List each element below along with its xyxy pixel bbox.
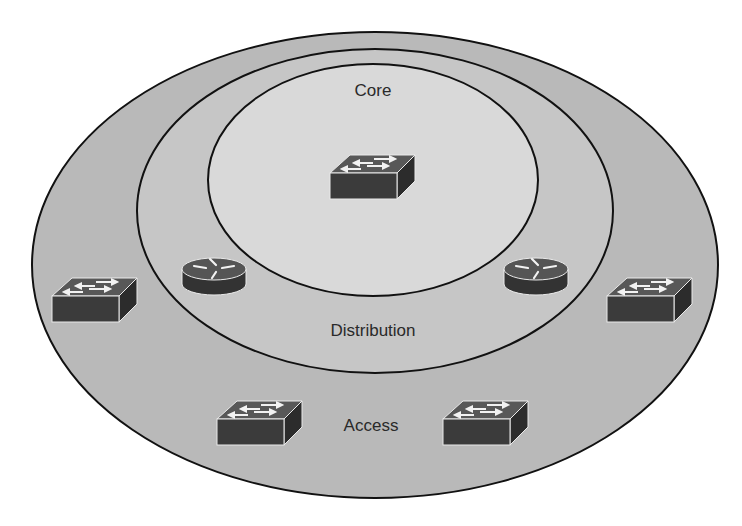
hierarchical-network-diagram: Core Distribution Access xyxy=(0,0,742,526)
access-switch-icon-left xyxy=(52,278,137,322)
access-label: Access xyxy=(344,416,399,435)
distribution-label: Distribution xyxy=(330,321,415,340)
distribution-router-icon-right xyxy=(504,258,568,295)
access-switch-icon-bottom-left xyxy=(217,401,302,445)
access-switch-icon-bottom-right xyxy=(443,401,528,445)
core-label: Core xyxy=(355,81,392,100)
distribution-router-icon-left xyxy=(182,258,246,295)
core-switch-icon xyxy=(330,155,415,199)
access-switch-icon-right xyxy=(607,278,692,322)
